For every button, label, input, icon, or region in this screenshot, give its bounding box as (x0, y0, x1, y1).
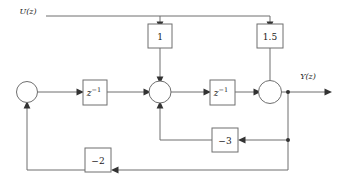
summing-junction-middle[interactable] (149, 81, 171, 103)
gain-minus2-label: −2 (91, 156, 104, 166)
block-diagram-canvas: 1 1.5 z−1 z−1 −3 −2 U(z) Y(z) (0, 0, 347, 186)
gain-1-label: 1 (157, 32, 163, 42)
summing-junction-right[interactable] (259, 81, 282, 104)
arrowhead-into-gain-minus3 (238, 137, 246, 144)
junction-dot-gain-minus3-branch (286, 138, 290, 142)
wire-gain-minus3-to-sum-middle (160, 106, 212, 140)
gain-1p5-label: 1.5 (263, 32, 278, 42)
output-signal-label: Y(z) (300, 72, 316, 81)
block-diagram-svg: 1 1.5 z−1 z−1 −3 −2 U(z) Y(z) (0, 0, 347, 186)
delay-1-exponent: −1 (92, 86, 102, 94)
wire-gain-minus2-to-sum-left (27, 106, 85, 170)
delay-2-exponent: −1 (219, 86, 229, 94)
input-signal-label: U(z) (19, 7, 36, 16)
summing-junction-left[interactable] (17, 82, 38, 103)
junction-dot-output (286, 90, 290, 94)
arrowhead-output (325, 89, 333, 96)
gain-minus3-label: −3 (218, 136, 232, 146)
arrowhead-into-gain-minus2 (111, 167, 119, 174)
